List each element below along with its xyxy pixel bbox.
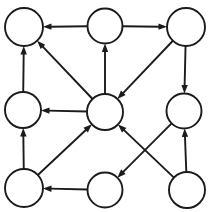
graph-node-bottom-right[interactable]: [169, 172, 205, 208]
graph-node-middle-right[interactable]: [167, 94, 202, 129]
graph-node-top-right[interactable]: [167, 8, 205, 46]
graph-node-center[interactable]: [87, 94, 123, 130]
graph-node-top-middle[interactable]: [88, 9, 123, 44]
edge-bottom-right-to-middle-right-arrowhead: [182, 128, 188, 137]
edge-bottom-right-to-center: [123, 129, 174, 178]
node-layer: [5, 8, 205, 208]
edge-center-to-top-middle-arrowhead: [102, 44, 108, 53]
edge-top-right-to-middle-right-arrowhead: [181, 85, 187, 94]
edge-top-middle-to-top-right-arrowhead: [158, 23, 167, 29]
edge-center-to-middle-left: [48, 111, 87, 112]
graph-node-top-left[interactable]: [5, 8, 43, 46]
edge-bottom-middle-to-bottom-left: [50, 189, 88, 190]
edge-center-to-middle-left-arrowhead: [41, 107, 50, 113]
diagram-canvas: [0, 0, 221, 212]
edge-top-right-to-middle-right: [185, 46, 186, 87]
edge-top-middle-to-top-left-arrowhead: [43, 23, 52, 29]
graph-node-bottom-middle[interactable]: [88, 173, 123, 208]
edge-middle-left-to-top-left-arrowhead: [20, 46, 26, 55]
edge-center-to-top-left: [42, 46, 93, 99]
edge-top-right-to-center: [122, 41, 173, 94]
edge-bottom-left-to-center: [38, 129, 87, 175]
edge-bottom-left-to-middle-left-arrowhead: [20, 128, 26, 137]
directed-graph: [0, 0, 221, 212]
edge-bottom-right-to-middle-right: [185, 135, 186, 172]
graph-node-bottom-left[interactable]: [5, 169, 43, 207]
edge-bottom-middle-to-bottom-left-arrowhead: [43, 185, 52, 191]
edge-middle-right-to-bottom-middle: [122, 123, 171, 172]
graph-node-middle-left[interactable]: [5, 92, 41, 128]
